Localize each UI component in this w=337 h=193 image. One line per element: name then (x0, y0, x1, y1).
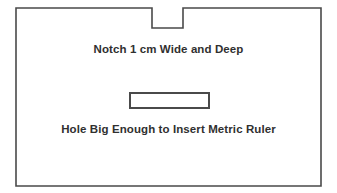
ruler-slot (130, 93, 209, 108)
diagram-canvas: Notch 1 cm Wide and Deep Hole Big Enough… (0, 0, 337, 193)
diagram-svg (0, 0, 337, 193)
